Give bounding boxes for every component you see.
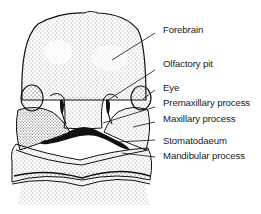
label-maxillary-process: Maxillary process bbox=[163, 113, 235, 124]
label-stomatodaeum: Stomatodaeum bbox=[163, 135, 227, 146]
label-premaxillary-process: Premaxillary process bbox=[163, 97, 250, 108]
forebrain bbox=[22, 12, 146, 101]
label-olfactory-pit: Olfactory pit bbox=[163, 58, 213, 69]
eye-left bbox=[21, 85, 43, 111]
eye-right bbox=[131, 86, 151, 110]
label-mandibular-process: Mandibular process bbox=[163, 150, 245, 161]
label-forebrain: Forebrain bbox=[163, 24, 203, 35]
label-eye: Eye bbox=[163, 82, 179, 93]
